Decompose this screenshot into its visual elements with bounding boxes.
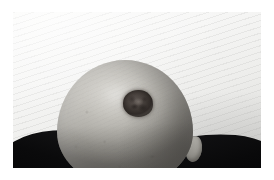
pigmented-lesion [123, 90, 153, 117]
bald-scalp [57, 60, 193, 168]
clinical-photograph [13, 12, 261, 168]
photo-page [0, 0, 274, 180]
lesion-pigment-network [123, 90, 153, 117]
